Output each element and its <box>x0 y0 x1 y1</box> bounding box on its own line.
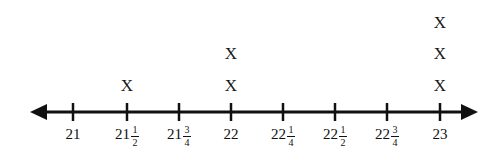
fraction-denominator: 4 <box>392 138 399 148</box>
tick-label: 2212 <box>323 126 347 149</box>
tick-label-fraction: 34 <box>391 125 399 148</box>
tick-label: 2134 <box>167 126 191 149</box>
fraction-denominator: 4 <box>288 138 295 148</box>
tick-label-fraction: 12 <box>131 125 139 148</box>
tick-label-whole: 22 <box>323 126 338 142</box>
tick-label: 2112 <box>115 126 139 149</box>
fraction-numerator: 3 <box>184 125 191 135</box>
tick-label-whole: 21 <box>167 126 182 142</box>
x-mark: X <box>434 14 446 31</box>
tick-label-whole: 21 <box>66 126 81 142</box>
fraction-denominator: 4 <box>184 138 191 148</box>
fraction-numerator: 1 <box>132 125 139 135</box>
tick-label: 2234 <box>375 126 399 149</box>
tick-label-fraction: 34 <box>183 125 191 148</box>
tick-label-fraction: 12 <box>339 125 347 148</box>
fraction-denominator: 2 <box>340 138 347 148</box>
fraction-denominator: 2 <box>132 138 139 148</box>
axis-arrow-right-icon <box>461 104 478 120</box>
fraction-numerator: 1 <box>340 125 347 135</box>
number-line-plot: XXXXXX 21211221342222142212223423 <box>0 0 499 165</box>
x-mark: X <box>121 77 133 94</box>
fraction-numerator: 3 <box>392 125 399 135</box>
tick-label-whole: 22 <box>271 126 286 142</box>
x-mark: X <box>434 77 446 94</box>
tick-label-whole: 23 <box>433 126 448 142</box>
tick-label-whole: 22 <box>224 126 239 142</box>
tick-label-whole: 21 <box>115 126 130 142</box>
tick-label: 22 <box>224 126 239 142</box>
x-mark: X <box>225 77 237 94</box>
fraction-numerator: 1 <box>288 125 295 135</box>
x-mark: X <box>434 45 446 62</box>
axis-arrow-left-icon <box>30 104 47 120</box>
tick-label-fraction: 14 <box>287 125 295 148</box>
tick-label-whole: 22 <box>375 126 390 142</box>
tick-label: 23 <box>433 126 448 142</box>
x-mark: X <box>225 45 237 62</box>
tick-label: 2214 <box>271 126 295 149</box>
tick-label: 21 <box>66 126 81 142</box>
